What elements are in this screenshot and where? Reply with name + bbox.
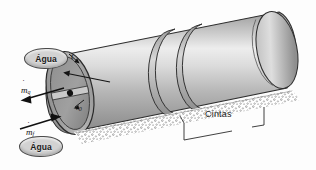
cintas-label-text: Cintas [205,109,232,119]
thickness-label: t [71,52,73,61]
water-label-top: Água [24,48,68,69]
mass-flow-cold-symbol: m [26,127,33,137]
thickness-label-text: t [71,52,73,61]
mass-flow-hot-label: ̇ mq [21,85,31,95]
mass-flow-cold-label: ̇ mf [26,127,34,137]
radius-label: r0 [76,104,82,112]
water-label-bottom-text: Água [30,142,52,152]
cintas-label: Cintas [205,109,232,119]
water-label-bottom: Água [19,136,63,157]
radius-subscript: 0 [79,106,82,112]
figure-canvas: Água Água t ̇ mq ̇ mf r0 Cintas [0,0,316,170]
water-label-top-text: Água [35,54,57,64]
mass-flow-hot-symbol: m [21,85,28,95]
